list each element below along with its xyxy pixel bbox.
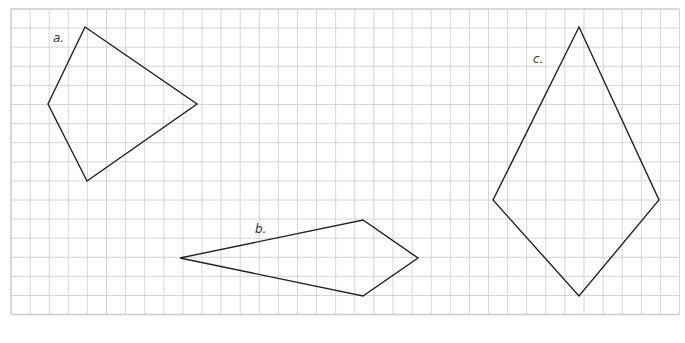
shape-a [48,27,197,181]
grid-canvas: a.b.c. [0,0,685,343]
shape-label-c: c. [533,52,543,66]
grid-lines [11,9,680,315]
shape-label-a: a. [53,31,64,45]
shape-label-b: b. [255,222,266,236]
shape-b [180,220,418,296]
